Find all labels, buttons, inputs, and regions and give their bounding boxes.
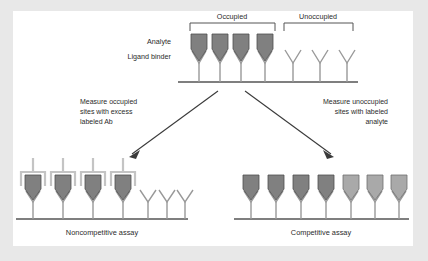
unoccupied-site bbox=[285, 50, 301, 82]
binder-fork bbox=[339, 50, 355, 63]
immunoassay-diagram: Occupied Unoccupied Analyte Ligand binde… bbox=[13, 11, 413, 246]
figure-panel: Occupied Unoccupied Analyte Ligand binde… bbox=[13, 11, 413, 246]
occupied-site bbox=[257, 34, 273, 82]
binder-fork bbox=[312, 50, 328, 63]
unoccupied-bracket-label: Unoccupied bbox=[299, 12, 337, 21]
labeled-analyte-shape bbox=[367, 175, 383, 200]
unoccupied-bracket bbox=[284, 23, 353, 31]
right-arrow-head bbox=[323, 150, 334, 159]
competitive-assay-group: Competitive assay bbox=[234, 175, 409, 237]
analyte-shape bbox=[85, 175, 101, 200]
occupied-site bbox=[212, 34, 228, 82]
noncompetitive-assay-group: Noncompetitive assay bbox=[16, 158, 193, 237]
unoccupied-site bbox=[339, 50, 355, 82]
analyte-label: Analyte bbox=[147, 37, 171, 46]
analyte-shape bbox=[233, 34, 249, 61]
analyte-shape bbox=[293, 175, 309, 200]
unoccupied-site bbox=[312, 50, 328, 82]
ligand-binder-label: Ligand binder bbox=[127, 52, 171, 61]
analyte-shape bbox=[115, 175, 131, 200]
analyte-site bbox=[243, 175, 259, 219]
analyte-shape bbox=[55, 175, 71, 200]
analyte-site bbox=[293, 175, 309, 219]
analyte-shape bbox=[25, 175, 41, 200]
occupied-bracket-label: Occupied bbox=[217, 12, 247, 21]
analyte-shape bbox=[257, 34, 273, 61]
analyte-shape bbox=[268, 175, 284, 200]
labeled-analyte-site bbox=[343, 175, 359, 219]
unoccupied-site bbox=[140, 190, 156, 219]
left-arrow-text: Measure occupied sites with excess label… bbox=[80, 98, 137, 125]
right-arrow-text-line-3: analyte bbox=[365, 118, 388, 126]
occupied-labeled-site bbox=[111, 158, 135, 219]
right-arrow-text-line-1: Measure unoccupied bbox=[323, 98, 388, 106]
labeled-analyte-shape bbox=[391, 175, 407, 200]
occupied-site bbox=[191, 34, 207, 82]
analyte-shape bbox=[318, 175, 334, 200]
analyte-shape bbox=[243, 175, 259, 200]
arrows-group bbox=[129, 91, 334, 159]
left-arrow-head bbox=[129, 150, 140, 159]
competitive-assay-caption: Competitive assay bbox=[291, 228, 352, 237]
right-arrow-text-line-2: sites with labeled bbox=[335, 108, 388, 115]
occupied-labeled-site bbox=[51, 158, 75, 219]
noncompetitive-assay-caption: Noncompetitive assay bbox=[66, 228, 139, 237]
analyte-shape bbox=[191, 34, 207, 61]
unoccupied-site bbox=[177, 190, 193, 219]
right-arrow-text: Measure unoccupied sites with labeled an… bbox=[323, 98, 388, 126]
analyte-site bbox=[318, 175, 334, 219]
left-arrow-text-line-3: labeled Ab bbox=[80, 118, 113, 125]
binder-fork bbox=[285, 50, 301, 63]
binder-fork bbox=[159, 190, 175, 202]
left-arrow-line bbox=[132, 91, 218, 154]
analyte-shape bbox=[212, 34, 228, 61]
binder-fork bbox=[140, 190, 156, 202]
left-arrow-text-line-1: Measure occupied bbox=[80, 98, 137, 106]
occupied-labeled-site bbox=[21, 158, 45, 219]
analyte-site bbox=[268, 175, 284, 219]
binder-fork bbox=[177, 190, 193, 202]
top-panel-group: Occupied Unoccupied Analyte Ligand binde… bbox=[127, 12, 358, 82]
left-arrow-text-line-2: sites with excess bbox=[80, 108, 133, 115]
right-arrow-line bbox=[245, 91, 331, 154]
unoccupied-site bbox=[159, 190, 175, 219]
labeled-analyte-site bbox=[367, 175, 383, 219]
occupied-bracket bbox=[190, 23, 275, 31]
labeled-analyte-shape bbox=[343, 175, 359, 200]
occupied-site bbox=[233, 34, 249, 82]
occupied-labeled-site bbox=[81, 158, 105, 219]
figure-root: Occupied Unoccupied Analyte Ligand binde… bbox=[0, 0, 428, 261]
labeled-analyte-site bbox=[391, 175, 407, 219]
